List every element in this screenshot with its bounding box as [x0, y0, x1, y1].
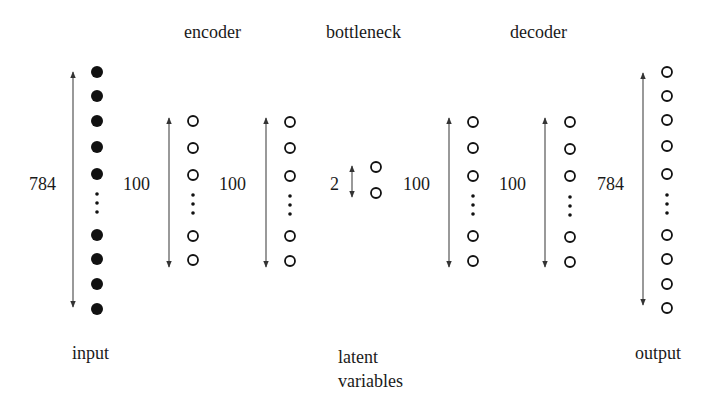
input-ellipsis-icon: [95, 192, 99, 214]
encoder-hidden-1-nodes: [188, 116, 198, 265]
output-nodes: [662, 67, 672, 313]
input-nodes: [91, 66, 103, 315]
input-layer: [73, 66, 103, 315]
decoder-hidden-1-layer: [449, 117, 478, 267]
decoder-hidden-1-ellipsis-icon: [471, 194, 475, 216]
encoder-hidden-1-ellipsis-icon: [191, 193, 195, 215]
decoder-hidden-2-layer: [545, 117, 575, 267]
autoencoder-diagram: encoder bottleneck decoder 784 100 100 2…: [0, 0, 724, 401]
output-layer: [643, 67, 672, 313]
encoder-hidden-1-layer: [169, 116, 198, 267]
bottleneck-layer: [352, 162, 381, 198]
encoder-hidden-2-layer: [266, 117, 295, 267]
decoder-hidden-2-ellipsis-icon: [568, 195, 572, 217]
encoder-hidden-2-nodes: [285, 117, 295, 266]
decoder-hidden-1-nodes: [468, 117, 478, 266]
encoder-hidden-2-ellipsis-icon: [288, 194, 292, 216]
network-graphics: [0, 0, 724, 401]
output-ellipsis-icon: [665, 193, 669, 215]
bottleneck-nodes: [371, 162, 381, 198]
decoder-hidden-2-nodes: [565, 117, 575, 267]
